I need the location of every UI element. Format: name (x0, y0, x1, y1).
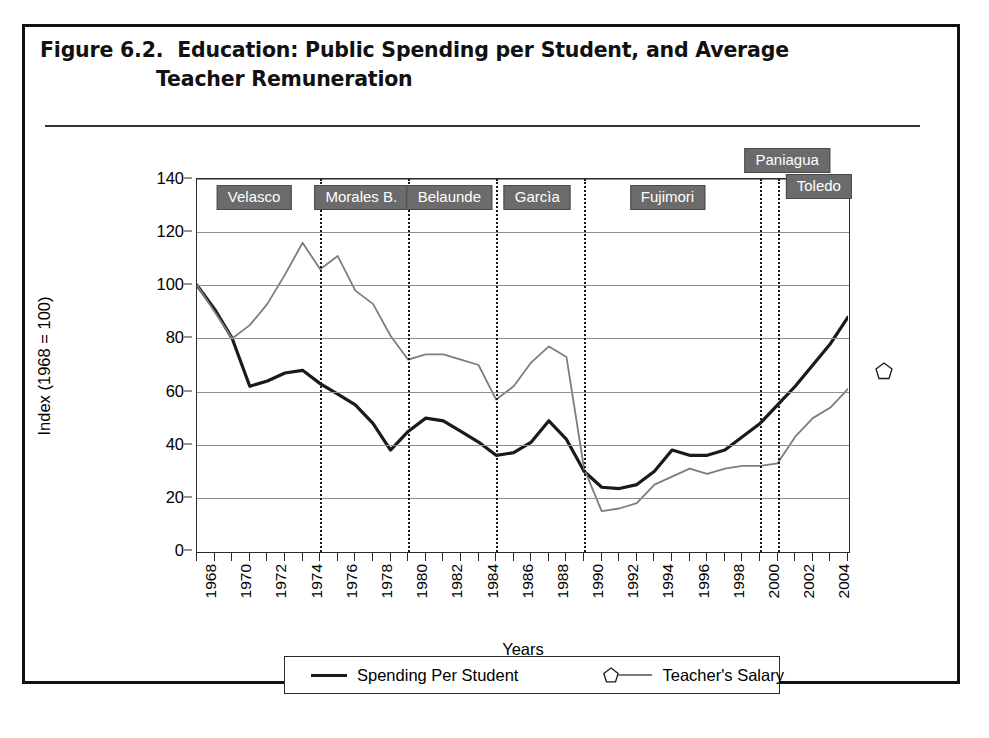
x-tick-mark-1990 (583, 553, 584, 561)
x-tick-mark-1988 (548, 553, 549, 561)
y-tick-label-140: 140 (156, 169, 184, 188)
x-tick-label-1974: 1974 (308, 564, 326, 598)
gridline-40 (197, 445, 849, 446)
x-tick-label-1968: 1968 (202, 564, 220, 598)
x-tick-label-1998: 1998 (730, 564, 748, 598)
x-tick-mark-1993 (636, 553, 637, 561)
y-axis-title: Index (1968 = 100) (30, 178, 58, 553)
x-tick-label-1980: 1980 (413, 564, 431, 598)
y-tick-label-0: 0 (175, 541, 184, 560)
chart-area: Index (1968 = 100) 020406080100120140 19… (22, 135, 960, 680)
x-tick-mark-1976 (337, 553, 338, 561)
x-tick-mark-1977 (354, 553, 355, 561)
x-tick-label-1982: 1982 (448, 564, 466, 598)
y-tick-mark-80 (184, 337, 192, 338)
gridline-80 (197, 338, 849, 339)
x-tick-mark-1975 (319, 553, 320, 561)
x-tick-mark-2001 (777, 553, 778, 561)
x-tick-mark-1987 (530, 553, 531, 561)
x-tick-mark-1974 (302, 553, 303, 561)
x-tick-mark-1972 (266, 553, 267, 561)
pentagon-marker-icon-stray (874, 361, 894, 381)
x-tick-mark-1981 (425, 553, 426, 561)
y-tick-label-80: 80 (166, 328, 184, 347)
series-canvas (197, 179, 848, 551)
legend-item-spending: Spending Per Student (311, 666, 518, 685)
y-tick-label-120: 120 (156, 222, 184, 241)
x-tick-label-1976: 1976 (343, 564, 361, 598)
legend-line-icon-spending (311, 674, 347, 677)
y-axis-labels: 020406080100120140 (122, 178, 192, 553)
government-label-moralesb: Morales B. (315, 185, 409, 210)
x-tick-mark-1995 (671, 553, 672, 561)
government-divider-2000 (760, 179, 762, 552)
y-tick-mark-0 (184, 550, 192, 551)
legend-item-salary: Teacher's Salary (602, 666, 783, 685)
y-tick-mark-140 (184, 178, 192, 179)
x-tick-label-1990: 1990 (589, 564, 607, 598)
x-tick-mark-1971 (249, 553, 250, 561)
y-tick-mark-60 (184, 390, 192, 391)
x-tick-label-1978: 1978 (378, 564, 396, 598)
y-tick-mark-20 (184, 496, 192, 497)
y-tick-mark-40 (184, 443, 192, 444)
x-tick-mark-1969 (214, 553, 215, 561)
x-tick-mark-1982 (442, 553, 443, 561)
x-tick-label-1970: 1970 (237, 564, 255, 598)
legend-line-icon-salary (618, 674, 652, 676)
x-tick-mark-2000 (759, 553, 760, 561)
x-tick-mark-1978 (372, 553, 373, 561)
government-label-velasco: Velasco (217, 185, 292, 210)
x-tick-mark-1985 (495, 553, 496, 561)
government-label-toledo: Toledo (786, 174, 852, 199)
x-tick-mark-1996 (689, 553, 690, 561)
figure-title: Figure 6.2. Education: Public Spending p… (40, 38, 920, 91)
x-tick-label-1996: 1996 (695, 564, 713, 598)
x-tick-mark-1992 (618, 553, 619, 561)
y-tick-mark-100 (184, 284, 192, 285)
figure-page: Figure 6.2. Education: Public Spending p… (0, 0, 989, 738)
government-divider-1990 (584, 179, 586, 552)
x-tick-mark-1983 (460, 553, 461, 561)
series-line-salary (197, 243, 848, 511)
x-tick-label-1972: 1972 (272, 564, 290, 598)
x-tick-label-2004: 2004 (835, 564, 853, 598)
x-tick-mark-1973 (284, 553, 285, 561)
government-divider-1980 (408, 179, 410, 552)
series-line-spending (197, 285, 848, 488)
gridline-60 (197, 392, 849, 393)
title-divider-rule (45, 125, 920, 127)
y-tick-label-100: 100 (156, 275, 184, 294)
x-tick-label-2002: 2002 (800, 564, 818, 598)
x-tick-mark-2004 (829, 553, 830, 561)
legend-label-salary: Teacher's Salary (662, 666, 783, 685)
chart-legend: Spending Per Student Teacher's Salary (284, 656, 780, 694)
x-tick-mark-1999 (741, 553, 742, 561)
gridline-20 (197, 498, 849, 499)
x-axis-labels: 1968197019721974197619781980198219841986… (196, 564, 850, 644)
x-tick-mark-1991 (601, 553, 602, 561)
x-tick-mark-1979 (390, 553, 391, 561)
plot-area (196, 178, 850, 553)
x-tick-mark-1968 (196, 553, 197, 561)
y-tick-mark-120 (184, 231, 192, 232)
government-label-garca: Garcìa (504, 185, 571, 210)
y-tick-label-60: 60 (166, 381, 184, 400)
x-tick-mark-2005 (847, 553, 848, 561)
gridline-100 (197, 285, 849, 286)
gridline-140 (197, 179, 849, 180)
x-tick-mark-1986 (513, 553, 514, 561)
x-tick-label-1992: 1992 (624, 564, 642, 598)
x-tick-mark-1998 (724, 553, 725, 561)
x-tick-mark-1997 (706, 553, 707, 561)
government-label-paniagua: Paniagua (744, 148, 829, 173)
x-tick-label-1994: 1994 (659, 564, 677, 598)
y-tick-label-20: 20 (166, 487, 184, 506)
government-divider-1985 (496, 179, 498, 552)
government-label-belaunde: Belaunde (407, 185, 492, 210)
x-tick-mark-1989 (565, 553, 566, 561)
government-label-fujimori: Fujimori (630, 185, 705, 210)
x-tick-mark-2002 (794, 553, 795, 561)
y-axis-title-text: Index (1968 = 100) (35, 296, 54, 435)
x-tick-mark-1994 (653, 553, 654, 561)
